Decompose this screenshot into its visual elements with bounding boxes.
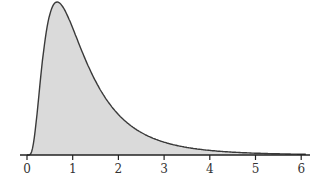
x-tick-label: 0 (23, 162, 31, 176)
x-tick-label: 6 (297, 162, 305, 176)
x-axis-ticks: 0123456 (23, 155, 305, 176)
density-area (27, 2, 306, 155)
density-chart: 0123456 (0, 0, 330, 190)
x-tick-label: 1 (69, 162, 77, 176)
x-tick-label: 5 (252, 162, 260, 176)
x-tick-label: 2 (115, 162, 123, 176)
x-tick-label: 4 (206, 162, 214, 176)
x-tick-label: 3 (160, 162, 168, 176)
